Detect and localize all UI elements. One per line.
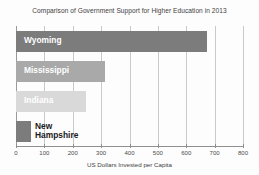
bar-label: Mississippi: [24, 66, 69, 76]
bar-label: Indiana: [24, 96, 53, 106]
x-tick-mark: [101, 144, 102, 148]
x-tick-label: 500: [153, 150, 163, 156]
gridline: [215, 26, 216, 147]
x-tick-label: 200: [68, 150, 78, 156]
x-tick-label: 600: [181, 150, 191, 156]
bar-label: Wyoming: [24, 36, 62, 46]
x-tick-label: 100: [39, 150, 49, 156]
x-tick-label: 800: [238, 150, 248, 156]
bar: [16, 121, 31, 142]
x-tick-label: 400: [124, 150, 134, 156]
chart-title: Comparison of Government Support for Hig…: [0, 7, 259, 14]
x-tick-label: 0: [14, 150, 17, 156]
x-tick-mark: [243, 144, 244, 148]
x-tick-mark: [44, 144, 45, 148]
x-tick-label: 700: [210, 150, 220, 156]
x-tick-mark: [16, 144, 17, 148]
x-tick-mark: [130, 144, 131, 148]
x-tick-mark: [158, 144, 159, 148]
gridline: [243, 26, 244, 147]
x-tick-mark: [186, 144, 187, 148]
bar-label: New Hampshire: [35, 122, 78, 141]
x-axis-title: US Dollars Invested per Capita: [0, 161, 259, 168]
x-tick-mark: [215, 144, 216, 148]
x-tick-mark: [73, 144, 74, 148]
chart-figure: Comparison of Government Support for Hig…: [0, 0, 259, 175]
x-tick-label: 300: [96, 150, 106, 156]
